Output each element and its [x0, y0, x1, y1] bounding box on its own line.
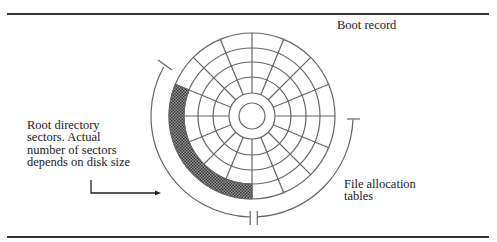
root-directory-sectors [169, 84, 252, 199]
root-directory-line-2: sectors. Actual [27, 131, 130, 143]
root-directory-line-4: depends on disk size [27, 156, 130, 168]
disk-platter [169, 33, 335, 199]
boot-record-label: Boot record [337, 19, 396, 31]
root-directory-bracket [151, 60, 250, 225]
disk-ring-1 [229, 93, 275, 139]
disk-hub [239, 103, 265, 129]
file-allocation-tables-label: File allocation tables [344, 178, 416, 203]
root-directory-label: Root directory sectors. Actual number of… [27, 119, 130, 168]
file-allocation-tables-line-2: tables [344, 190, 416, 202]
disk-sector-spokes [169, 33, 335, 199]
root-directory-pointer-arrow [91, 180, 161, 196]
bracket-end-tick [158, 60, 172, 70]
